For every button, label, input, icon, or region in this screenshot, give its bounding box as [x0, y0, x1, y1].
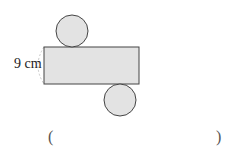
- answer-blank[interactable]: [60, 128, 210, 148]
- lateral-surface-rectangle: [44, 47, 139, 84]
- answer-close-paren: ): [216, 128, 221, 146]
- bottom-base-circle: [104, 84, 136, 116]
- top-base-circle: [56, 15, 88, 47]
- answer-open-paren: (: [48, 128, 53, 146]
- height-label: 9 cm: [14, 56, 42, 72]
